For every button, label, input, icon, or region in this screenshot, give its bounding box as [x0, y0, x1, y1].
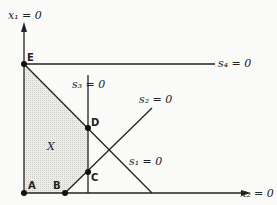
point-A-marker: [21, 190, 27, 196]
x1-axis-label: x₁ = 0: [8, 9, 42, 22]
point-E-label: E: [27, 52, 34, 63]
region-label: X: [46, 140, 56, 153]
point-D-label: D: [91, 117, 99, 128]
point-B-label: B: [53, 180, 61, 191]
point-B-marker: [62, 190, 68, 196]
x2-axis-label: x₂ = 0: [240, 187, 274, 200]
s1-label: s₁ = 0: [129, 155, 162, 168]
x1-axis-arrow-icon: [21, 22, 27, 32]
s4-label: s₄ = 0: [218, 57, 251, 70]
point-C-label: C: [91, 172, 98, 183]
feasible-region-diagram: x₁ = 0 x₂ = 0 s₄ = 0 s₃ = 0 s₂ = 0 s₁ = …: [0, 0, 277, 205]
point-A-label: A: [28, 180, 36, 191]
s2-label: s₂ = 0: [139, 93, 172, 106]
s3-label: s₃ = 0: [72, 78, 105, 91]
